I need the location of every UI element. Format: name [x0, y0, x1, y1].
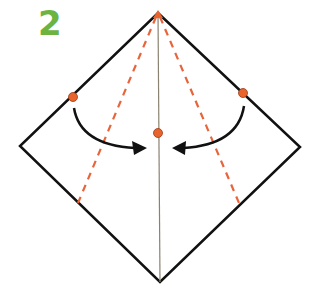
apex-marker [153, 10, 163, 18]
center-reference-dot [154, 129, 163, 138]
fold-diagram [0, 0, 313, 288]
left-reference-dot [69, 93, 78, 102]
right-reference-dot [239, 89, 248, 98]
